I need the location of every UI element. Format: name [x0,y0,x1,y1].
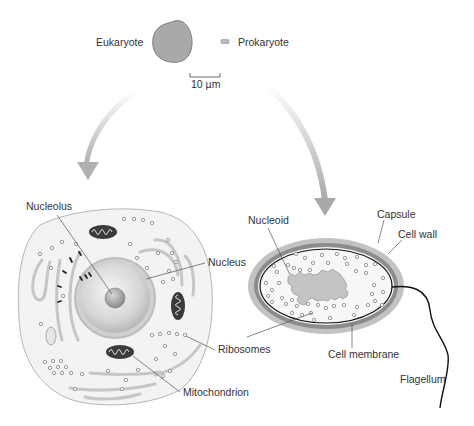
cell-wall-leader [388,240,402,254]
ribosomes-label: Ribosomes [218,343,271,355]
cell-membrane-label: Cell membrane [328,348,399,360]
scale-bar [190,73,220,77]
size-comparison: Eukaryote Prokaryote 10 µm [96,21,289,90]
eukaryote-size-shape [153,21,192,63]
capsule-leader [378,220,384,243]
mitochondrion-top [89,225,117,239]
mitochondrion-right [171,292,185,320]
prokaryotic-cell: Nucleoid Capsule Cell wall Cell membrane… [247,208,448,408]
arrow-to-eukaryote [77,90,138,180]
flagellum-label: Flagellum [400,373,446,385]
flagellum [392,286,448,408]
nucleus [75,258,155,338]
eukaryotic-cell: Nucleolus Nucleus Ribosomes Mitochondrio… [18,200,270,405]
nucleoid-label: Nucleoid [248,214,289,226]
eukaryote-label: Eukaryote [96,36,143,48]
arrow-to-prokaryote [266,86,336,216]
capsule-label: Capsule [377,208,416,220]
prokaryote-size-shape [221,40,229,44]
nucleus-label: Nucleus [208,256,246,268]
mitochondrion-label: Mitochondrion [183,386,249,398]
nucleolus-label: Nucleolus [26,200,72,212]
cell-comparison-diagram: Eukaryote Prokaryote 10 µm [0,0,474,426]
prokaryote-label: Prokaryote [238,36,289,48]
mitochondrion-bottom [106,345,134,359]
cell-wall-label: Cell wall [398,228,437,240]
nucleolus [105,288,125,308]
scale-bar-label: 10 µm [191,78,221,90]
vacuole [46,327,56,345]
